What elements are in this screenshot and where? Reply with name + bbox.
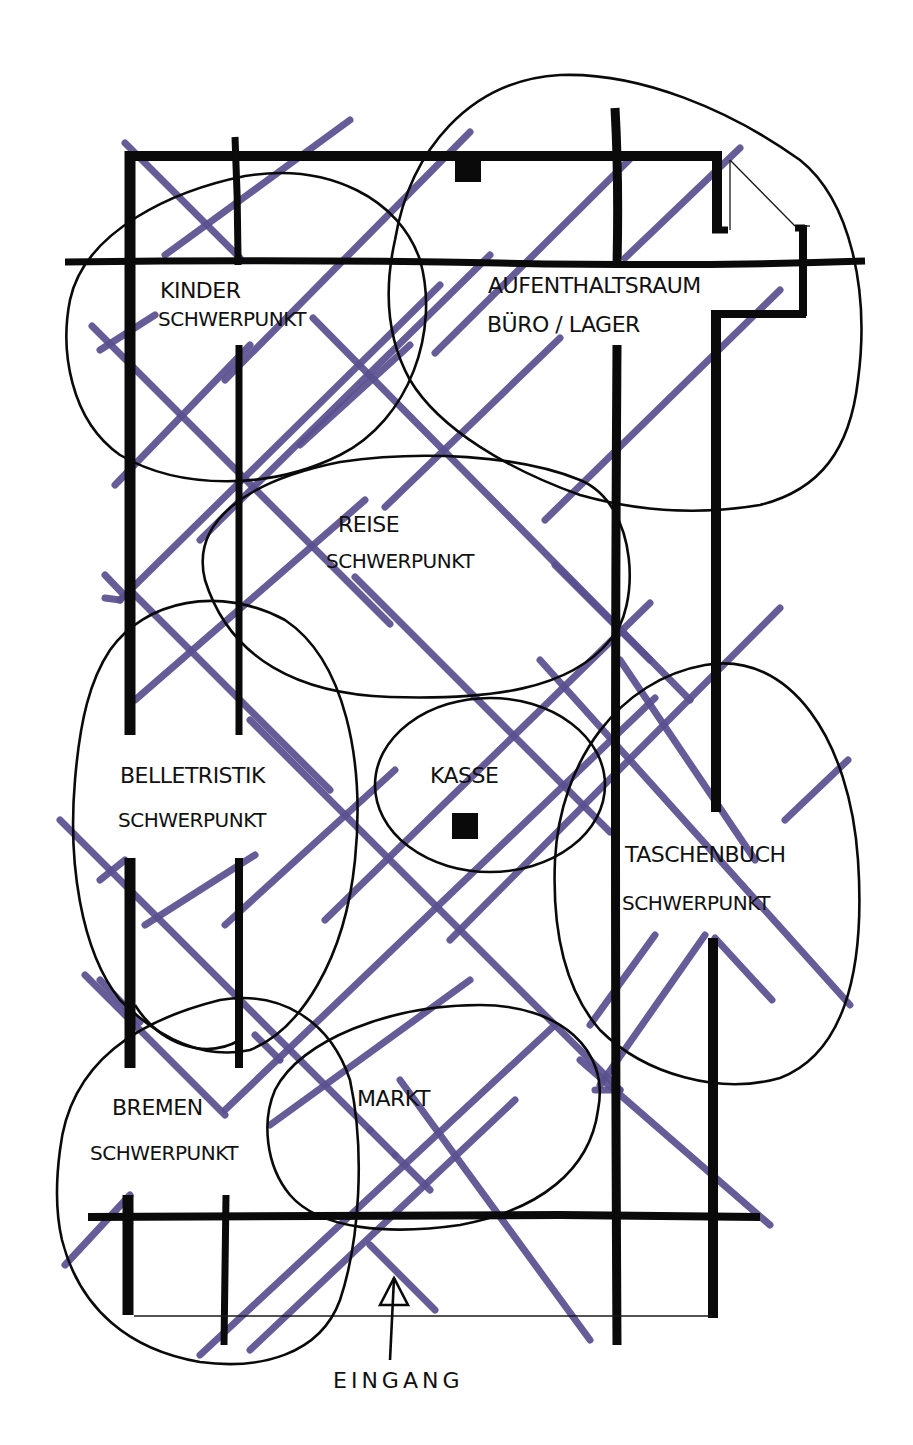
label-kinder-1: KINDER <box>160 278 241 303</box>
label-taschenbuch-2: SCHWERPUNKT <box>622 891 771 915</box>
label-aufenthalt-1: AUFENTHALTSRAUM <box>488 273 701 298</box>
label-belletristik-1: BELLETRISTIK <box>120 763 266 788</box>
label-kasse: KASSE <box>430 763 498 788</box>
label-taschenbuch-1: TASCHENBUCH <box>624 842 786 867</box>
floor-plan: KINDER SCHWERPUNKT AUFENTHALTSRAUM BÜRO … <box>0 0 913 1445</box>
label-reise-2: SCHWERPUNKT <box>326 549 475 573</box>
zone-bremen <box>57 998 359 1364</box>
label-reise-1: REISE <box>338 512 399 537</box>
arrow-up-icon <box>380 1278 408 1360</box>
label-eingang: EINGANG <box>333 1368 463 1393</box>
pillar-top <box>455 158 481 182</box>
sightline-grid <box>60 120 850 1355</box>
label-aufenthalt-2: BÜRO / LAGER <box>487 312 640 337</box>
label-bremen-1: BREMEN <box>112 1095 203 1120</box>
zone-markt <box>267 1005 599 1230</box>
kasse-counter <box>452 813 478 839</box>
label-belletristik-2: SCHWERPUNKT <box>118 808 267 832</box>
label-markt: MARKT <box>357 1086 431 1111</box>
label-kinder-2: SCHWERPUNKT <box>158 307 307 331</box>
zone-bubbles <box>57 75 862 1364</box>
label-bremen-2: SCHWERPUNKT <box>90 1141 239 1165</box>
